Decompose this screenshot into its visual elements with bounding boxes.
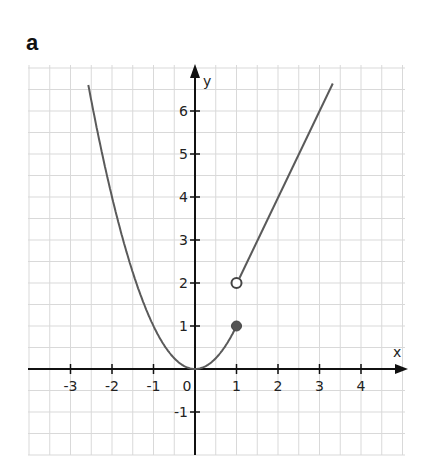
x-tick-label: -1 xyxy=(147,378,161,394)
y-tick-label: 1 xyxy=(179,318,188,334)
x-tick-label: 1 xyxy=(232,378,241,394)
x-tick-label: 4 xyxy=(357,378,366,394)
x-tick-label: -2 xyxy=(105,378,119,394)
x-axis-arrow-icon xyxy=(395,364,408,374)
open-endpoint-marker xyxy=(232,278,242,288)
closed-endpoint-marker xyxy=(232,321,242,331)
y-tick-label: 2 xyxy=(179,275,188,291)
y-tick-label: 5 xyxy=(179,146,188,162)
linear-segment xyxy=(240,83,333,278)
x-tick-label: 3 xyxy=(315,378,324,394)
y-tick-label: 6 xyxy=(179,103,188,119)
x-axis-name: x xyxy=(393,344,401,360)
y-tick-label: 3 xyxy=(179,232,188,248)
y-tick-label: -1 xyxy=(174,404,188,420)
y-axis-name: y xyxy=(203,73,211,89)
grid xyxy=(28,65,405,455)
y-axis-arrow-icon xyxy=(190,64,200,78)
axes xyxy=(28,64,408,455)
x-tick-label: -3 xyxy=(64,378,78,394)
function-plot: -3-2-101234-1123456 x y xyxy=(0,0,423,470)
x-tick-label: 2 xyxy=(274,378,283,394)
y-tick-label: 4 xyxy=(179,189,188,205)
x-tick-label: 0 xyxy=(183,378,192,394)
